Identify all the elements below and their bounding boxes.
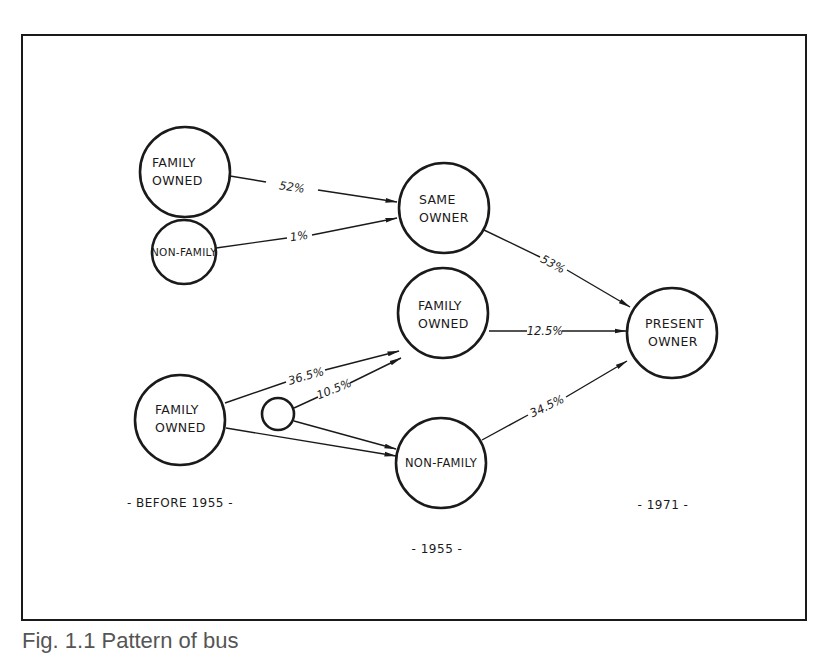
node-before-non-family: NON-FAMILY [151, 220, 217, 284]
svg-text:NON-FAMILY: NON-FAMILY [405, 456, 478, 470]
edge-label: 10.5% [314, 376, 353, 403]
node-same-owner: SAME OWNER [399, 163, 489, 253]
svg-text:OWNED: OWNED [152, 173, 203, 188]
node-small-unlabeled [262, 398, 294, 430]
svg-text:SAME: SAME [419, 192, 456, 207]
svg-text:PRESENT: PRESENT [645, 316, 704, 331]
edge-family-to-same-owner: 52% [230, 176, 397, 202]
edge-label: 12.5% [527, 324, 564, 338]
edge-small-to-mid-nonfamily [294, 421, 396, 449]
edge-label: 34.5% [528, 392, 567, 421]
svg-text:OWNER: OWNER [419, 210, 469, 225]
edge-label: 53% [538, 252, 567, 276]
node-mid-family-owned: FAMILY OWNED [398, 268, 488, 358]
edge-mid-nonfamily-to-present: 34.5% [482, 361, 627, 440]
period-label-1955: - 1955 - [412, 542, 463, 556]
svg-text:OWNER: OWNER [648, 334, 698, 349]
svg-text:OWNED: OWNED [155, 420, 206, 435]
figure-caption: Fig. 1.1 Pattern of bus [22, 628, 238, 654]
svg-text:FAMILY: FAMILY [152, 155, 196, 170]
edge-nonfamily-to-same-owner: 1% [216, 218, 397, 248]
edge-small-to-mid-family: 10.5% [294, 358, 401, 408]
node-before-family-owned-bottom: FAMILY OWNED [135, 375, 225, 465]
node-present-owner: PRESENT OWNER [627, 288, 717, 378]
svg-text:FAMILY: FAMILY [155, 402, 199, 417]
svg-text:OWNED: OWNED [418, 316, 469, 331]
edge-label: 36.5% [287, 364, 326, 388]
edge-same-owner-to-present: 53% [484, 230, 630, 307]
period-label-before-1955: - BEFORE 1955 - [127, 496, 233, 510]
period-label-1971: - 1971 - [638, 498, 689, 512]
edge-label: 52% [278, 178, 305, 195]
edge-label: 1% [289, 228, 309, 244]
edge-mid-family-to-present: 12.5% [489, 324, 626, 338]
node-before-family-owned-top: FAMILY OWNED [140, 127, 230, 217]
svg-text:NON-FAMILY: NON-FAMILY [151, 246, 217, 258]
node-mid-non-family: NON-FAMILY [396, 418, 486, 508]
svg-text:FAMILY: FAMILY [418, 298, 462, 313]
edge-family-to-mid-family: 36.5% [225, 351, 399, 403]
